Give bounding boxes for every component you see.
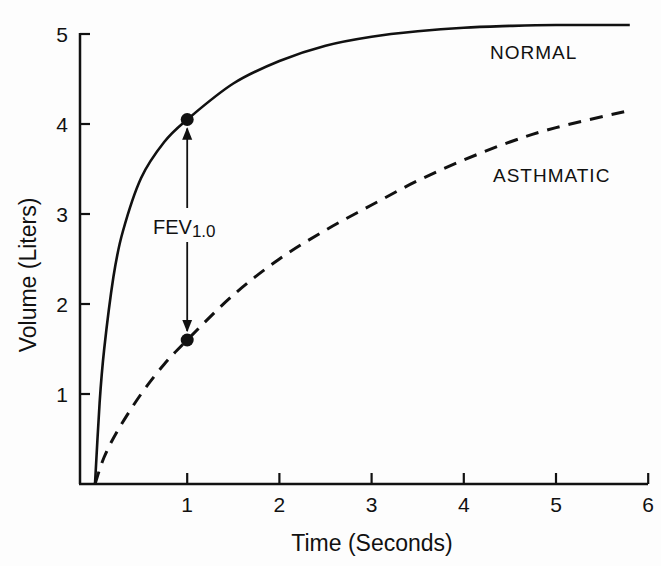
x-tick-label: 4 (458, 493, 470, 516)
fev-annotation: FEV1.0 (153, 129, 216, 332)
x-tick-label: 6 (642, 493, 654, 516)
y-tick-label: 4 (56, 113, 68, 136)
x-tick-label: 2 (274, 493, 286, 516)
fev-label-subscript: 1.0 (192, 222, 216, 241)
normal-curve (95, 25, 630, 484)
x-tick-label: 5 (550, 493, 562, 516)
fev-label: FEV1.0 (153, 216, 216, 241)
x-axis-title: Time (Seconds) (291, 530, 452, 556)
y-tick-label: 2 (56, 293, 68, 316)
data-point-marker (181, 334, 194, 347)
y-axis-title: Volume (Liters) (15, 198, 41, 353)
x-ticks: 123456 (181, 473, 654, 516)
y-ticks: 12345 (56, 23, 90, 406)
data-point-marker (181, 113, 194, 126)
y-tick-label: 3 (56, 203, 68, 226)
x-tick-label: 1 (181, 493, 193, 516)
fev-label-main: FEV (153, 216, 193, 238)
y-tick-label: 5 (56, 23, 68, 46)
y-tick-label: 1 (56, 383, 68, 406)
axes: 12345 123456 (56, 23, 654, 516)
x-tick-label: 3 (366, 493, 378, 516)
fev-chart: 12345 123456 Time (Seconds) Volume (Lite… (0, 0, 661, 566)
asthmatic-label: ASTHMATIC (493, 165, 610, 186)
normal-label: NORMAL (490, 42, 577, 63)
